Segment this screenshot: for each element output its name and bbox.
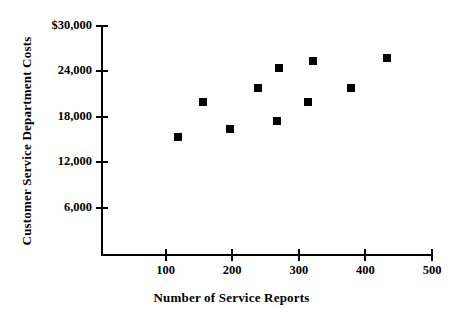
y-tick-label: 24,000 — [58, 64, 92, 77]
x-tick-label: 200 — [202, 264, 262, 277]
data-point-marker — [347, 84, 355, 92]
x-axis-line — [101, 254, 433, 256]
x-tick-label: 500 — [402, 264, 462, 277]
plot-area — [103, 26, 433, 254]
y-tick-label: 6,000 — [64, 201, 92, 214]
data-point-marker — [254, 84, 262, 92]
x-axis-title: Number of Service Reports — [0, 290, 463, 306]
data-point-marker — [383, 54, 391, 62]
data-point-marker — [275, 64, 283, 72]
y-axis-title: Customer Service Department Costs — [19, 16, 35, 266]
data-point-marker — [273, 117, 281, 125]
x-tick-label: 400 — [335, 264, 395, 277]
scatter-plot-figure: $30,00024,00018,00012,0006,000 100200300… — [0, 0, 463, 320]
data-point-marker — [304, 98, 312, 106]
data-point-marker — [199, 98, 207, 106]
data-point-marker — [309, 57, 317, 65]
x-tick-label: 300 — [269, 264, 329, 277]
x-tick-label: 100 — [136, 264, 196, 277]
y-tick-label: 18,000 — [58, 110, 92, 123]
y-tick-label: $30,000 — [51, 19, 92, 32]
data-point-marker — [226, 125, 234, 133]
data-point-marker — [174, 133, 182, 141]
y-tick-label: 12,000 — [58, 155, 92, 168]
